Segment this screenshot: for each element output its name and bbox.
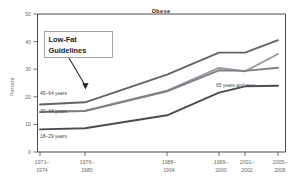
y-tick-label-20: 20 bbox=[25, 94, 31, 100]
x-tick-label-2005-2006-top: 2005– bbox=[273, 159, 288, 165]
y-tick-label-0: 0 bbox=[28, 149, 31, 155]
x-tick-label-1976-1980-top: 1976– bbox=[80, 159, 95, 165]
series-label-18-29-years: 18–29 years bbox=[40, 134, 67, 139]
annotation-arrow bbox=[69, 58, 89, 90]
x-tick-label-2001-2002-bottom: 2002 bbox=[241, 167, 253, 173]
y-tick-label-50: 50 bbox=[25, 11, 31, 17]
x-tick-label-1999-2000-bottom: 2000 bbox=[215, 167, 227, 173]
series-label-65-years-and-over: 65 years and over bbox=[216, 83, 256, 88]
y-tick-label-10: 10 bbox=[25, 121, 31, 127]
y-axis-ticks: 50 40 30 20 10 0 bbox=[25, 11, 37, 155]
series-line-30-44-years bbox=[40, 68, 278, 112]
y-axis-title: Percent bbox=[9, 77, 15, 96]
series-label-30-44-years: 30–44 years bbox=[40, 109, 67, 114]
obesity-trend-chart: 50 40 30 20 10 0 Percent Obese 1971– 197… bbox=[0, 0, 306, 180]
x-tick-label-1971-1974-top: 1971– bbox=[35, 159, 50, 165]
x-axis-ticks bbox=[40, 152, 278, 156]
y-tick-label-30: 30 bbox=[25, 66, 31, 72]
plot-title: Obese bbox=[152, 8, 171, 14]
annotation-line-1: Low-Fat bbox=[49, 35, 78, 44]
x-tick-label-1988-1994-bottom: 1994 bbox=[163, 167, 175, 173]
annotation-line-2: Guidelines bbox=[49, 46, 87, 55]
annotation-box: Low-Fat Guidelines bbox=[45, 32, 113, 58]
x-tick-label-2001-2002-top: 2001– bbox=[240, 159, 255, 165]
series-label-45-64-years: 45–64 years bbox=[40, 91, 67, 96]
x-tick-label-2005-2006-bottom: 2006 bbox=[274, 167, 286, 173]
y-tick-label-40: 40 bbox=[25, 39, 31, 45]
x-tick-label-1988-1994-top: 1988– bbox=[162, 159, 177, 165]
chart-canvas: 50 40 30 20 10 0 Percent Obese 1971– 197… bbox=[0, 0, 306, 180]
x-tick-label-1999-2000-top: 1999– bbox=[214, 159, 229, 165]
x-tick-label-1976-1980-bottom: 1980 bbox=[81, 167, 93, 173]
x-tick-label-1971-1974-bottom: 1974 bbox=[36, 167, 48, 173]
x-axis-labels: 1971– 1974 1976– 1980 1988– 1994 1999– 2… bbox=[35, 159, 288, 173]
